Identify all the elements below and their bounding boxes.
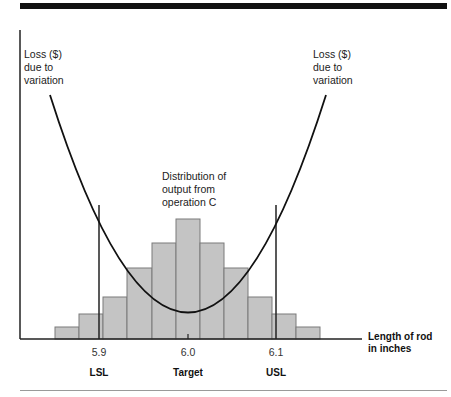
histogram-bar	[248, 297, 272, 339]
x-axis-title: Length of rod in inches	[368, 331, 432, 355]
bottom-rule	[20, 390, 447, 391]
histogram-bar	[127, 268, 152, 339]
histogram	[55, 219, 320, 339]
histogram-bar	[152, 243, 176, 339]
loss-left-label: Loss ($) due to variation	[24, 48, 64, 87]
tick-label-target: 6.0	[168, 346, 208, 358]
usl-label: USL	[251, 367, 301, 378]
histogram-bar	[200, 243, 224, 339]
histogram-bar	[55, 327, 79, 339]
loss-right-label: Loss ($) due to variation	[313, 48, 353, 87]
tick-label-usl: 6.1	[256, 346, 296, 358]
tick-label-lsl: 5.9	[79, 346, 119, 358]
lsl-label: LSL	[74, 367, 124, 378]
histogram-bar	[103, 297, 127, 339]
histogram-bar	[224, 268, 248, 339]
histogram-bar	[296, 327, 320, 339]
distribution-label: Distribution of output from operation C	[162, 170, 226, 209]
target-label: Target	[163, 367, 213, 378]
histogram-bar	[176, 219, 200, 339]
